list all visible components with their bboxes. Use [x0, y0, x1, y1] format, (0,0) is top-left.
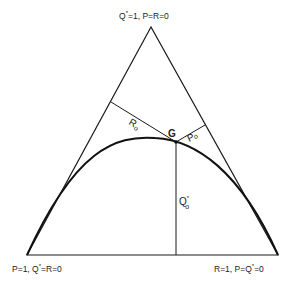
r0-segment	[111, 102, 176, 142]
ternary-diagram: G Ro Po Q*o Q*=1, P=R=0 P=1, Q*=R=0 R=1,…	[0, 0, 302, 284]
r0-label: Ro	[127, 116, 143, 132]
p0-label: Po	[185, 129, 199, 143]
q0-label: Q*o	[179, 195, 190, 210]
vertex-bottom-right-label: R=1, P=Q*=0	[214, 263, 264, 274]
vertex-bottom-left-label: P=1, Q*=R=0	[12, 263, 62, 274]
point-g-marker	[174, 140, 178, 144]
vertex-top-label: Q*=1, P=R=0	[119, 10, 169, 21]
simplex-triangle	[27, 27, 278, 255]
point-g-label: G	[168, 128, 176, 139]
equilibrium-curve	[27, 138, 278, 255]
